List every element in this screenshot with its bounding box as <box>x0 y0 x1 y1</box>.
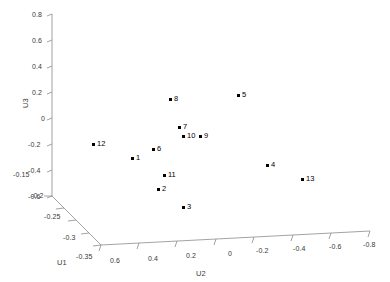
u2-tick-3: 0 <box>228 250 232 257</box>
data-point-marker <box>169 98 172 101</box>
data-point-label: 11 <box>168 170 176 179</box>
u2-tick-6: -0.6 <box>329 243 341 250</box>
u3-tick-2: 0.4 <box>32 63 42 70</box>
u1-tick-4: -0.35 <box>76 253 92 260</box>
data-point-label: 12 <box>97 139 105 148</box>
data-point-marker <box>152 148 155 151</box>
data-point-label: 2 <box>162 184 166 193</box>
u2-tick-7: -0.8 <box>363 241 375 248</box>
u1-axis-title: U1 <box>57 258 67 267</box>
data-point-marker <box>131 157 134 160</box>
data-point-label: 13 <box>306 174 314 183</box>
data-point-marker <box>199 135 202 138</box>
data-point-marker <box>182 206 185 209</box>
data-point-marker <box>182 135 185 138</box>
data-point-label: 3 <box>187 202 191 211</box>
data-point-label: 5 <box>242 90 246 99</box>
data-point-marker <box>237 94 240 97</box>
data-point-label: 8 <box>174 94 178 103</box>
data-point-marker <box>157 188 160 191</box>
u3-tick-6: -0.4 <box>28 167 40 174</box>
data-point-marker <box>163 174 166 177</box>
u2-tick-1: 0.4 <box>148 255 158 262</box>
scatter3d-plot: 0.8 0.6 0.4 0.2 0 -0.2 -0.4 -0.6 -0.15 -… <box>0 0 390 282</box>
data-point-label: 4 <box>271 160 275 169</box>
u1-tick-0: -0.15 <box>13 171 29 178</box>
u2-tick-0: 0.6 <box>110 257 120 264</box>
u3-tick-5: -0.2 <box>28 141 40 148</box>
u3-tick-3: 0.2 <box>32 89 42 96</box>
data-point-label: 7 <box>183 122 187 131</box>
data-point-marker <box>301 178 304 181</box>
u2-axis-title: U2 <box>196 269 206 278</box>
u1-tick-2: -0.25 <box>44 213 60 220</box>
u3-tick-0: 0.8 <box>32 11 42 18</box>
data-point-label: 6 <box>157 144 161 153</box>
data-point-marker <box>266 164 269 167</box>
u3-axis-title: U3 <box>21 98 30 108</box>
u2-tick-4: -0.2 <box>256 247 268 254</box>
u2-tick-5: -0.4 <box>293 245 305 252</box>
u1-tick-1: -0.2 <box>31 192 43 199</box>
u1-tick-3: -0.3 <box>63 234 75 241</box>
u2-tick-2: 0.2 <box>186 252 196 259</box>
u1-axis-line <box>52 196 101 245</box>
u3-tick-1: 0.6 <box>32 37 42 44</box>
data-point-label: 1 <box>136 153 140 162</box>
data-point-label: 10 <box>187 131 195 140</box>
axes-lines <box>0 0 390 282</box>
data-point-marker <box>178 126 181 129</box>
data-point-label: 9 <box>204 131 208 140</box>
data-point-marker <box>92 143 95 146</box>
u3-tick-4: 0 <box>41 115 45 122</box>
